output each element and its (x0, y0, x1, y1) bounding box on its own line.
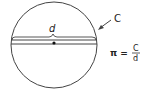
center-point (52, 41, 55, 44)
formula-numerator: C (133, 44, 139, 53)
diameter-label: d (49, 23, 56, 34)
diameter-brace (12, 34, 96, 40)
formula-lhs: π = (110, 48, 128, 58)
circle (11, 2, 97, 88)
circle-diagram: d C π = C d (0, 0, 144, 90)
formula-denominator: d (133, 54, 138, 63)
circumference-label: C (114, 13, 121, 24)
